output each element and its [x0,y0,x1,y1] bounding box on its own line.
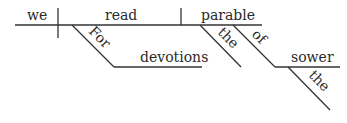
diagram-canvas: we read parable devotions sower For the … [0,0,347,123]
sentence-diagram: we read parable devotions sower For the … [0,0,347,123]
word-subject: we [27,7,47,23]
word-preposition-1: For [86,23,115,52]
word-verb: read [105,7,137,23]
word-object: parable [201,7,255,23]
word-prep-object-2: sower [291,49,334,65]
word-object-modifier: the [215,24,243,52]
word-prep-object-1: devotions [140,49,208,65]
